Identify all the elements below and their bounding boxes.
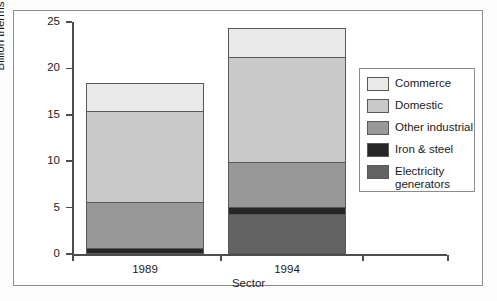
stacked-bar[interactable] (86, 0, 204, 301)
y-tick-label: 10 (30, 155, 60, 167)
bar-segment[interactable] (86, 111, 204, 202)
x-tick-mark (447, 255, 449, 261)
y-tick-mark (66, 160, 72, 162)
legend-swatch (367, 143, 389, 157)
x-tick-mark (362, 255, 364, 261)
y-tick-mark (66, 21, 72, 23)
y-tick-label: 25 (30, 16, 60, 28)
y-tick-mark (66, 207, 72, 209)
legend-swatch (367, 165, 389, 179)
legend-item[interactable]: Electricity generators (367, 165, 450, 190)
y-tick-label: 20 (30, 62, 60, 74)
legend-label: Iron & steel (395, 143, 453, 156)
stacked-bar[interactable] (228, 0, 346, 301)
bar-segment[interactable] (86, 83, 204, 111)
legend-item[interactable]: Iron & steel (367, 143, 453, 157)
legend-item[interactable]: Domestic (367, 99, 443, 113)
legend-item[interactable]: Commerce (367, 77, 451, 91)
legend-label: Electricity generators (395, 165, 450, 190)
legend-label: Commerce (395, 77, 451, 90)
x-tick-mark (220, 255, 222, 261)
legend-swatch (367, 121, 389, 135)
y-tick-label: 5 (30, 202, 60, 214)
bar-segment[interactable] (228, 214, 346, 254)
bar-segment[interactable] (228, 28, 346, 57)
legend-swatch (367, 99, 389, 113)
legend-item[interactable]: Other industrial (367, 121, 473, 135)
bar-segment[interactable] (86, 248, 204, 254)
y-tick-mark (66, 114, 72, 116)
x-tick-mark (72, 255, 74, 261)
bar-segment[interactable] (86, 202, 204, 247)
chart-legend: CommerceDomesticOther industrialIron & s… (359, 68, 475, 192)
y-tick-mark (66, 68, 72, 70)
legend-label: Domestic (395, 99, 443, 112)
y-axis-title: Billion therms (0, 0, 6, 96)
bar-segment[interactable] (228, 162, 346, 207)
y-tick-label: 0 (30, 248, 60, 260)
chart-figure: Billion therms 0510152025 19891994 Secto… (0, 0, 497, 301)
bar-segment[interactable] (228, 207, 346, 214)
bar-segment[interactable] (228, 57, 346, 162)
y-axis-line (72, 22, 74, 255)
y-tick-label: 15 (30, 109, 60, 121)
legend-swatch (367, 77, 389, 91)
legend-label: Other industrial (395, 121, 473, 134)
